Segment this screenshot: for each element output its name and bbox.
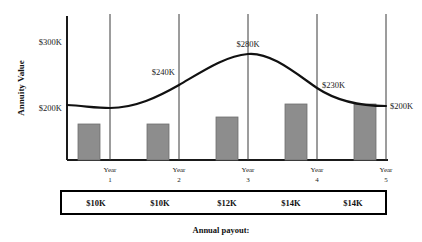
x-tick-year-5-number: 5 [384,176,388,184]
x-tick-year-5-name: Year [380,166,394,174]
curve-label-year-4: $230K [322,80,346,90]
x-tick-year-1-name: Year [104,166,118,174]
annuity-chart: Annuity Value $300K $200K $240K $280K [0,0,422,242]
payout-cell-year-1: $10K [86,198,106,208]
payout-cell-year-5: $14K [343,198,363,208]
y-tick-label-200k: $200K [39,103,63,113]
bar-year-5 [354,104,376,160]
curve-label-year-5: $200K [390,101,414,111]
bar-year-1 [78,124,100,160]
y-tick-label-300k: $300K [39,37,63,47]
x-tick-year-3-name: Year [242,166,256,174]
y-axis-title: Annuity Value [16,60,26,115]
chart-svg: Annuity Value $300K $200K $240K $280K [0,0,422,242]
curve-label-year-3: $280K [236,39,260,49]
bar-year-2 [147,124,169,160]
payout-cell-year-3: $12K [217,198,237,208]
payout-table: $10K $10K $12K $14K $14K [61,191,386,214]
x-tick-year-2-number: 2 [177,176,181,184]
payout-caption: Annual payout: [193,225,250,235]
x-tick-year-2-name: Year [173,166,187,174]
x-tick-year-1-number: 1 [108,176,112,184]
bar-year-3 [216,117,238,160]
x-tick-year-4-number: 4 [315,176,319,184]
curve-label-year-2: $240K [152,67,176,77]
x-tick-year-3-number: 3 [246,176,250,184]
x-tick-year-4-name: Year [311,166,325,174]
bar-year-4 [285,104,307,160]
payout-cell-year-2: $10K [150,198,170,208]
payout-cell-year-4: $14K [281,198,301,208]
